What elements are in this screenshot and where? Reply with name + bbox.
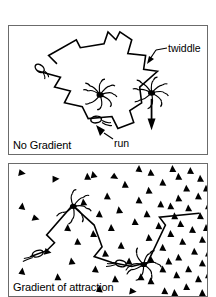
attractant-triangles (18, 165, 207, 296)
chemotaxis-figure: No Gradient (0, 0, 216, 297)
panel-caption-no-gradient: No Gradient (13, 139, 71, 152)
random-walk-path (39, 32, 158, 128)
bacterium-twiddle-upper (57, 190, 92, 224)
bacterium-twiddle-center (83, 79, 117, 110)
bacterium-twiddle-right (133, 77, 169, 109)
panel-gradient-of-attraction: Gradient of attraction (8, 163, 208, 297)
annotation-label-run: run (114, 137, 129, 149)
annotation-label-twiddle: twiddle (168, 42, 201, 54)
panel-caption-gradient: Gradient of attraction (13, 281, 114, 294)
direction-arrow (148, 99, 156, 131)
bacterium-run-upper-left (34, 62, 49, 79)
gradient-trajectory-svg (9, 164, 207, 296)
